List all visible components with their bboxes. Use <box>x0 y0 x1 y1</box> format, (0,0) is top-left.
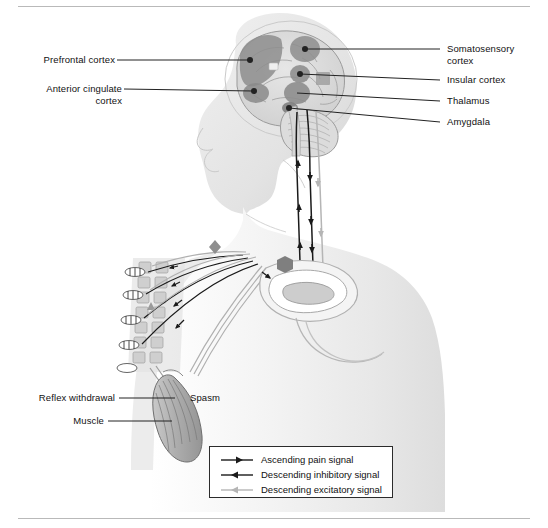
label-reflex-withdrawal: Reflex withdrawal <box>10 392 115 404</box>
leader-dot-amygdala <box>286 105 292 111</box>
leader-dot-somatosensory <box>302 46 308 52</box>
legend-label-descending-inhibitory-signal: Descending inhibitory signal <box>261 469 379 481</box>
label-muscle: Muscle <box>10 415 104 427</box>
label-insular-cortex: Insular cortex <box>447 74 505 86</box>
neck-contour <box>283 160 305 188</box>
legend-item-descending-inhibitory-signal: Descending inhibitory signal <box>210 467 394 482</box>
legend-marker-arrow-left-dark <box>220 469 254 481</box>
legend: Ascending pain signal Descending inhibit… <box>209 446 393 498</box>
label-spasm: Spasm <box>190 392 220 404</box>
label-anterior-cingulate-cortex-line1: Anterior cingulate <box>10 83 122 95</box>
label-somatosensory-cortex-line2: cortex <box>447 55 473 67</box>
pain-pathway-figure: Prefrontal cortex Anterior cingulate cor… <box>0 0 548 528</box>
label-anterior-cingulate-cortex-line2: cortex <box>10 95 122 107</box>
label-amygdala: Amygdala <box>447 116 490 128</box>
region-ventricle-block <box>316 72 330 85</box>
legend-label-ascending-pain-signal: Ascending pain signal <box>261 454 353 466</box>
legend-label-descending-excitatory-signal: Descending excitatory signal <box>261 484 382 496</box>
label-thalamus: Thalamus <box>447 95 490 107</box>
legend-marker-arrow-right-dark <box>220 454 254 466</box>
leader-dot-cingulate <box>251 88 257 94</box>
region-corpus-callosum-block <box>269 63 278 70</box>
legend-item-ascending-pain-signal: Ascending pain signal <box>210 452 394 467</box>
label-somatosensory-cortex-line1: Somatosensory <box>447 43 514 55</box>
leader-dot-prefrontal <box>247 57 253 63</box>
legend-marker-arrow-left-light <box>220 484 254 496</box>
legend-item-descending-excitatory-signal: Descending excitatory signal <box>210 482 394 497</box>
leader-dot-insular <box>297 71 303 77</box>
label-prefrontal-cortex: Prefrontal cortex <box>10 54 115 66</box>
